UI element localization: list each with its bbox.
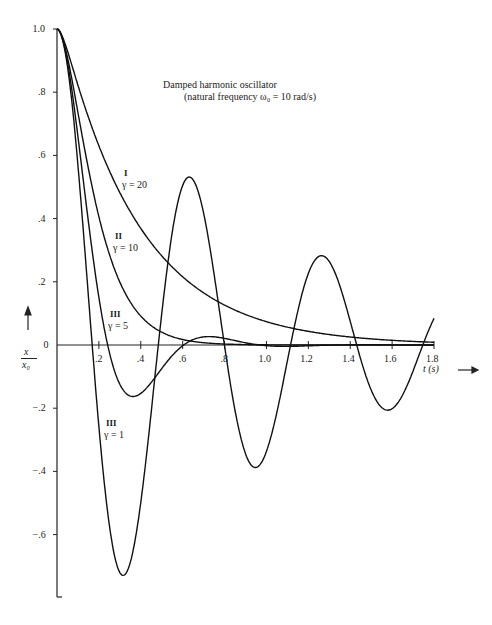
curve-gamma-20	[57, 29, 434, 342]
y-tick-label: 0	[44, 339, 49, 350]
y-tick-label: .6	[38, 149, 46, 160]
y-tick-label: .2	[38, 276, 46, 287]
y-axis-label-denominator: x₀	[22, 359, 30, 370]
gamma-value: γ = 20	[122, 179, 147, 190]
chart-title: Damped harmonic oscillator	[163, 79, 277, 91]
x-tick-label: 1.6	[384, 353, 397, 364]
x-tick-label: 1.4	[342, 353, 355, 364]
roman-numeral: I	[122, 168, 147, 179]
y-tick-label: .4	[38, 213, 46, 224]
y-axis-label-numerator: x	[24, 346, 28, 357]
x-tick-label: .6	[179, 353, 187, 364]
curve-label-gamma-5: III γ = 5	[108, 309, 128, 331]
roman-numeral: III	[104, 418, 124, 429]
x-axis-label: t (s)	[423, 363, 439, 374]
y-tick-label: .8	[38, 86, 46, 97]
y-tick-label: −.6	[33, 529, 46, 540]
gamma-value: γ = 10	[113, 242, 138, 253]
y-tick-label: −.4	[33, 465, 46, 476]
curve-gamma-10	[57, 29, 434, 345]
curve-label-gamma-1: III γ = 1	[104, 418, 124, 440]
curve-label-gamma-20: I γ = 20	[122, 168, 147, 190]
gamma-value: γ = 1	[104, 429, 124, 440]
roman-numeral: III	[108, 309, 128, 320]
chart-subtitle: (natural frequency ω₀ = 10 rad/s)	[184, 91, 316, 103]
roman-numeral: II	[113, 231, 138, 242]
x-tick-label: 1.2	[300, 353, 313, 364]
x-tick-label: .8	[221, 353, 229, 364]
x-tick-label: 1.0	[258, 353, 271, 364]
gamma-value: γ = 5	[108, 320, 128, 331]
curve-gamma-1	[57, 29, 434, 575]
y-tick-label: −.2	[33, 402, 46, 413]
x-tick-label: .2	[95, 353, 103, 364]
y-tick-label: 1.0	[33, 23, 46, 34]
curve-label-gamma-10: II γ = 10	[113, 231, 138, 253]
x-tick-label: .4	[137, 353, 145, 364]
